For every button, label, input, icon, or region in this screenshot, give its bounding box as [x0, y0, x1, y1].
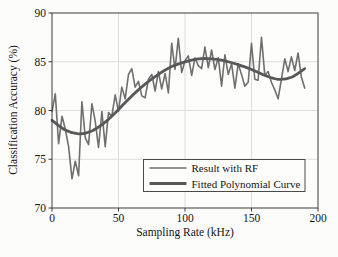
y-tick-label: 70 — [35, 202, 47, 214]
x-tick-label: 100 — [176, 212, 194, 224]
line-chart: 0501001502007075808590Result with RFFitt… — [0, 0, 338, 257]
x-axis-title: Sampling Rate (kHz) — [52, 226, 318, 239]
y-tick-label: 85 — [35, 56, 47, 68]
legend-label: Result with RF — [192, 162, 259, 174]
figure: 0501001502007075808590Result with RFFitt… — [0, 0, 338, 257]
x-tick-label: 150 — [243, 212, 261, 224]
x-tick-label: 50 — [113, 212, 125, 224]
y-tick-label: 75 — [35, 153, 47, 165]
legend-label: Fitted Polynomial Curve — [192, 178, 301, 190]
x-tick-label: 0 — [49, 212, 55, 224]
x-tick-label: 200 — [309, 212, 327, 224]
y-tick-label: 90 — [35, 7, 47, 19]
y-axis-title: Classification Accuracy (%) — [7, 45, 20, 175]
y-tick-label: 80 — [35, 105, 47, 117]
